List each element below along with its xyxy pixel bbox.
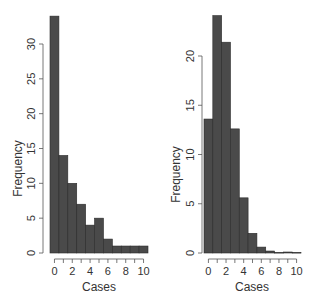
histogram-bar [130, 246, 139, 253]
x-tick-label: 2 [69, 265, 75, 277]
y-axis: 051015202530 [25, 38, 43, 256]
histogram-left: 051015202530Frequency0246810Cases [11, 16, 150, 294]
histogram-bar [257, 247, 266, 253]
y-tick-label: 30 [25, 38, 37, 50]
histogram-bar [213, 16, 222, 253]
histogram-bar [59, 155, 68, 253]
histogram-bar [239, 198, 248, 253]
x-axis: 0246810 [51, 259, 149, 277]
histogram-bar [121, 246, 130, 253]
histogram-bar [266, 251, 275, 253]
histogram-bar [139, 246, 148, 253]
y-tick-label: 25 [25, 73, 37, 85]
histogram-bar [230, 129, 239, 253]
histogram-bar [248, 233, 257, 253]
y-tick-label: 0 [25, 250, 37, 256]
histogram-bar [112, 246, 121, 253]
x-tick-label: 10 [137, 265, 149, 277]
x-tick-label: 2 [223, 265, 229, 277]
y-axis-label: Frequency [11, 140, 25, 197]
y-tick-label: 15 [25, 142, 37, 154]
x-tick-label: 8 [123, 265, 129, 277]
y-tick-label: 5 [184, 201, 196, 207]
x-tick-label: 8 [276, 265, 282, 277]
histogram-figure: 051015202530Frequency0246810Cases 051015… [0, 0, 316, 306]
x-tick-label: 10 [290, 265, 302, 277]
x-axis: 0246810 [205, 259, 302, 277]
x-tick-label: 0 [51, 265, 57, 277]
histogram-bar [292, 253, 301, 254]
y-tick-label: 10 [25, 177, 37, 189]
y-axis: 05101520 [184, 50, 202, 256]
x-tick-label: 6 [258, 265, 264, 277]
y-tick-label: 0 [184, 250, 196, 256]
x-tick-label: 6 [105, 265, 111, 277]
y-tick-label: 5 [25, 215, 37, 221]
histogram-bar [222, 42, 231, 253]
x-tick-label: 4 [241, 265, 247, 277]
y-axis-label: Frequency [169, 146, 183, 203]
y-tick-label: 20 [25, 108, 37, 120]
y-tick-label: 10 [184, 148, 196, 160]
histogram-bar [68, 183, 77, 253]
histogram-bar [86, 225, 95, 253]
x-axis-label: Cases [235, 280, 269, 294]
y-tick-label: 20 [184, 50, 196, 62]
y-tick-label: 15 [184, 99, 196, 111]
x-tick-label: 4 [87, 265, 93, 277]
histogram-right: 05101520Frequency0246810Cases [169, 16, 303, 294]
x-axis-label: Cases [82, 280, 116, 294]
histogram-bar [275, 253, 284, 254]
histogram-bar [283, 252, 292, 253]
x-tick-label: 0 [205, 265, 211, 277]
histogram-bar [50, 16, 59, 253]
histogram-bar [95, 218, 104, 253]
histogram-bar [204, 119, 213, 253]
histogram-bar [103, 239, 112, 253]
histogram-bar [77, 204, 86, 253]
